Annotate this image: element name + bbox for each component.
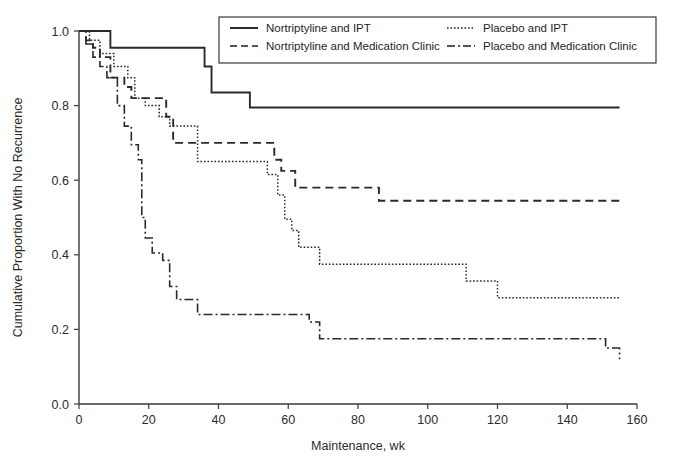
y-tick-label: 0.2 bbox=[52, 323, 69, 337]
x-tick-label: 80 bbox=[351, 413, 365, 427]
y-tick-label: 0.0 bbox=[52, 398, 69, 412]
x-tick-label: 0 bbox=[76, 413, 83, 427]
x-tick-label: 60 bbox=[281, 413, 295, 427]
x-tick-label: 40 bbox=[212, 413, 226, 427]
data-curves bbox=[79, 31, 620, 359]
legend-label-0: Nortriptyline and IPT bbox=[266, 22, 371, 34]
x-axis-ticks: 020406080100120140160 bbox=[76, 404, 648, 427]
x-tick-label: 140 bbox=[557, 413, 578, 427]
legend-label-3: Placebo and Medication Clinic bbox=[483, 40, 637, 52]
y-axis-ticks: 0.00.20.40.60.81.0 bbox=[52, 25, 79, 412]
chart-legend: Nortriptyline and IPTNortriptyline and M… bbox=[219, 17, 656, 63]
legend-label-2: Placebo and IPT bbox=[483, 22, 568, 34]
y-tick-label: 0.4 bbox=[52, 248, 69, 262]
x-tick-label: 120 bbox=[487, 413, 508, 427]
x-tick-label: 100 bbox=[417, 413, 438, 427]
x-axis-title: Maintenance, wk bbox=[311, 439, 406, 453]
kaplan-meier-chart: 0.00.20.40.60.81.0 020406080100120140160… bbox=[0, 0, 678, 465]
y-tick-label: 1.0 bbox=[52, 25, 69, 39]
x-tick-label: 20 bbox=[142, 413, 156, 427]
curve-series-2 bbox=[79, 31, 620, 298]
y-tick-label: 0.6 bbox=[52, 174, 69, 188]
legend-label-1: Nortriptyline and Medication Clinic bbox=[266, 40, 440, 52]
x-tick-label: 160 bbox=[627, 413, 648, 427]
curve-series-3 bbox=[79, 31, 620, 359]
survival-curve-figure: 0.00.20.40.60.81.0 020406080100120140160… bbox=[0, 0, 678, 465]
y-tick-label: 0.8 bbox=[52, 99, 69, 113]
y-axis-title: Cumulative Proportion With No Recurrence bbox=[11, 98, 25, 338]
